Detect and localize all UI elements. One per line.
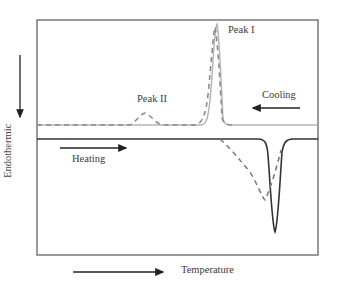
y-axis-label: Endothermic — [2, 124, 13, 178]
cooling-solid-curve — [37, 24, 318, 125]
peak-ii-label: Peak II — [137, 93, 167, 104]
cooling-dashed-curve — [37, 27, 232, 125]
plot-frame — [37, 20, 318, 255]
heating-label: Heating — [72, 153, 105, 164]
x-axis-label: Temperature — [181, 264, 234, 275]
heating-dashed-curve — [220, 139, 281, 200]
peak-i-label: Peak I — [228, 24, 255, 35]
cooling-label: Cooling — [262, 89, 296, 100]
dsc-thermogram — [0, 0, 337, 292]
